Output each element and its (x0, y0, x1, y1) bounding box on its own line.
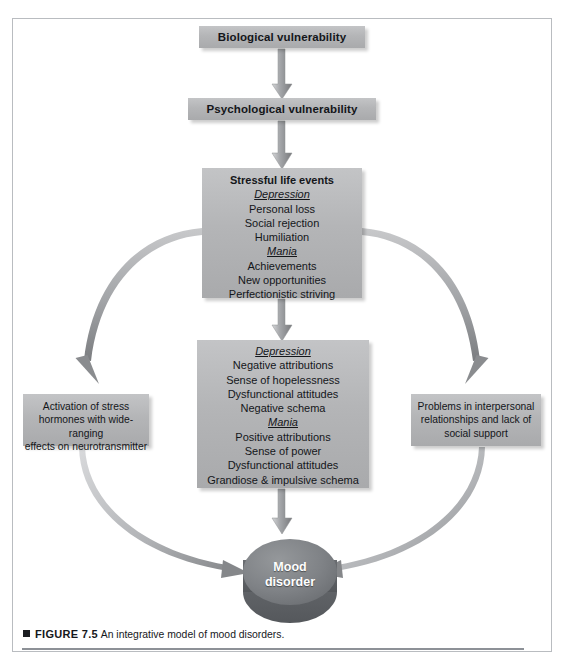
stressful-life-events-title: Stressful life events (202, 173, 362, 187)
stressful-depression-item: Social rejection (202, 216, 362, 230)
figure-caption-text: An integrative model of mood disorders. (101, 629, 285, 640)
stressful-mania-item: Achievements (202, 259, 362, 273)
left-effects-line: Activation of stress (23, 400, 149, 413)
arrow-cognitions-to-outcome (272, 489, 292, 534)
node-right-effects: Problems in interpersonal relationships … (411, 394, 541, 446)
outcome-line: Mood (273, 560, 306, 574)
node-biological-vulnerability: Biological vulnerability (199, 26, 365, 48)
stressful-depression-item: Personal loss (202, 202, 362, 216)
arrow-stress-to-right-effects (362, 228, 489, 384)
cognitions-mania-item: Grandiose & impulsive schema (197, 473, 369, 487)
node-left-effects: Activation of stress hormones with wide-… (23, 394, 149, 446)
caption-rule (22, 648, 524, 650)
stressful-mania-item: New opportunities (202, 273, 362, 287)
node-cognitions: Depression Negative attributions Sense o… (197, 340, 369, 488)
arrow-psychological-to-stress (272, 121, 292, 169)
node-stressful-life-events: Stressful life events Depression Persona… (202, 168, 362, 298)
cognitions-mania-heading: Mania (197, 415, 369, 429)
arrow-biological-to-psychological (272, 49, 292, 99)
node-psychological-vulnerability-label: Psychological vulnerability (207, 103, 358, 115)
cognitions-depression-item: Sense of hopelessness (197, 373, 369, 387)
cognitions-depression-item: Dysfunctional attitudes (197, 387, 369, 401)
square-bullet-icon (23, 630, 30, 637)
cognitions-mania-item: Positive attributions (197, 430, 369, 444)
right-effects-line: relationships and lack of (411, 413, 541, 426)
right-effects-line: Problems in interpersonal (411, 400, 541, 413)
cognitions-depression-heading: Depression (197, 344, 369, 358)
node-psychological-vulnerability: Psychological vulnerability (188, 98, 376, 120)
stressful-mania-item: Perfectionistic striving (202, 287, 362, 301)
outcome-line: disorder (265, 575, 315, 589)
arrow-stress-to-cognitions (272, 299, 292, 341)
cognitions-mania-item: Dysfunctional attitudes (197, 458, 369, 472)
right-effects-line: social support (411, 427, 541, 440)
left-effects-line: hormones with wide-ranging (23, 413, 149, 440)
stressful-depression-item: Humiliation (202, 230, 362, 244)
figure-number: FIGURE 7.5 (35, 628, 98, 640)
arrow-stress-to-left-effects (76, 228, 203, 384)
stressful-mania-heading: Mania (202, 244, 362, 258)
node-biological-vulnerability-label: Biological vulnerability (218, 31, 346, 43)
cognitions-mania-item: Sense of power (197, 444, 369, 458)
cognitions-depression-item: Negative attributions (197, 358, 369, 372)
cognitions-depression-item: Negative schema (197, 401, 369, 415)
stressful-depression-heading: Depression (202, 187, 362, 201)
outcome-label: Mood disorder (247, 560, 333, 590)
figure-caption: FIGURE 7.5 An integrative model of mood … (23, 628, 523, 640)
left-effects-line: effects on neurotransmitter (23, 440, 149, 453)
